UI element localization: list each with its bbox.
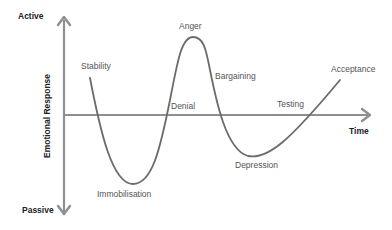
stage-label-anger: Anger <box>179 22 202 31</box>
emotional-response-curve <box>90 37 340 184</box>
y-axis-top-label: Active <box>18 12 44 21</box>
stage-label-stability: Stability <box>81 62 111 71</box>
stage-label-immobilisation: Immobilisation <box>97 190 151 199</box>
stage-label-denial: Denial <box>171 102 195 111</box>
stage-label-bargaining: Bargaining <box>215 72 256 81</box>
stage-label-testing: Testing <box>277 100 304 109</box>
x-axis-title: Time <box>349 127 369 136</box>
y-axis-bottom-label: Passive <box>22 206 54 215</box>
stage-label-depression: Depression <box>235 161 278 170</box>
stage-label-acceptance: Acceptance <box>331 65 375 74</box>
y-axis-title: Emotional Response <box>43 74 52 158</box>
diagram-graphics <box>0 0 392 230</box>
change-curve-diagram: Active Passive Emotional Response Time S… <box>0 0 392 230</box>
